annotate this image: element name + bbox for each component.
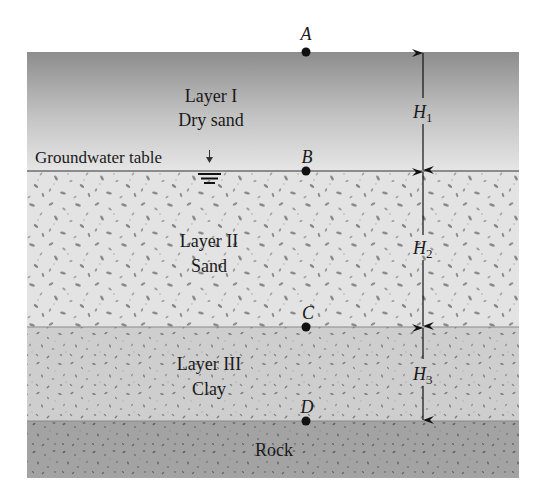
layer-2-title: Layer II <box>180 231 238 251</box>
rock-label: Rock <box>255 440 293 460</box>
h2-symbol: H <box>412 238 427 258</box>
point-c-label: C <box>302 303 315 323</box>
h3-symbol: H <box>412 364 427 384</box>
point-a-label: A <box>300 24 313 44</box>
h2-subscript: 2 <box>426 246 433 261</box>
point-a-dot <box>302 48 311 57</box>
point-c-dot <box>302 323 311 332</box>
layer-2-sand <box>27 171 519 327</box>
layer-2-material: Sand <box>191 256 227 276</box>
h1-symbol: H <box>412 102 427 122</box>
soil-profile-diagram: Groundwater table Layer I Dry sand Layer… <box>0 0 544 502</box>
point-a: A <box>300 24 313 57</box>
point-b-label: B <box>302 147 313 167</box>
h3-subscript: 3 <box>426 372 433 387</box>
h1-subscript: 1 <box>426 110 433 125</box>
layer-3-title: Layer III <box>177 354 241 374</box>
point-d-label: D <box>300 397 314 417</box>
groundwater-table-label: Groundwater table <box>35 148 162 167</box>
layer-1-title: Layer I <box>185 86 237 106</box>
layer-3-clay <box>27 327 519 421</box>
point-b-dot <box>302 167 311 176</box>
point-d-dot <box>302 417 311 426</box>
layer-3-material: Clay <box>192 379 226 399</box>
layer-1-material: Dry sand <box>178 110 244 130</box>
